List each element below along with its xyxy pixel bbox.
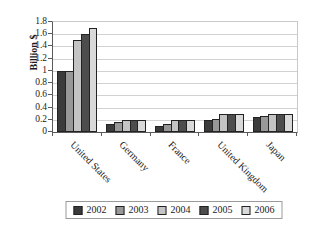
y-tick-mark bbox=[48, 119, 52, 120]
legend-item: 2006 bbox=[242, 205, 275, 215]
y-tick-label: 1.4 bbox=[17, 40, 47, 50]
legend-item: 2004 bbox=[158, 205, 191, 215]
y-tick-mark bbox=[48, 70, 52, 71]
bar-group bbox=[151, 22, 200, 132]
y-tick-mark bbox=[48, 58, 52, 59]
legend-swatch bbox=[242, 206, 251, 215]
bar-group bbox=[199, 22, 248, 132]
y-tick-label: 0.8 bbox=[17, 77, 47, 87]
x-tick-mark bbox=[296, 132, 297, 136]
legend-swatch bbox=[200, 206, 209, 215]
legend-item: 2002 bbox=[74, 205, 107, 215]
x-tick-mark bbox=[198, 132, 199, 136]
x-tick-mark bbox=[247, 132, 248, 136]
bar bbox=[89, 28, 98, 132]
x-tick-mark bbox=[52, 132, 53, 136]
chart-figure: Billion $ 20022003200420052006 00.20.40.… bbox=[0, 0, 314, 238]
legend-item: 2005 bbox=[200, 205, 233, 215]
y-tick-label: 0.6 bbox=[17, 89, 47, 99]
legend-swatch bbox=[74, 206, 83, 215]
x-category-label: United States bbox=[69, 139, 115, 185]
bar bbox=[186, 120, 195, 132]
bar-group bbox=[102, 22, 151, 132]
bar-group bbox=[53, 22, 102, 132]
plot-area bbox=[52, 21, 298, 133]
y-tick-mark bbox=[48, 33, 52, 34]
legend-label: 2004 bbox=[171, 205, 191, 215]
bar bbox=[235, 114, 244, 132]
y-tick-label: 1 bbox=[17, 65, 47, 75]
x-tick-mark bbox=[150, 132, 151, 136]
x-category-label: Germany bbox=[117, 139, 151, 173]
legend-swatch bbox=[116, 206, 125, 215]
y-tick-mark bbox=[48, 82, 52, 83]
y-tick-label: 1.2 bbox=[17, 53, 47, 63]
y-tick-label: 0.2 bbox=[17, 114, 47, 124]
y-tick-mark bbox=[48, 21, 52, 22]
y-tick-label: 0.4 bbox=[17, 102, 47, 112]
y-tick-mark bbox=[48, 45, 52, 46]
y-tick-label: 1.8 bbox=[17, 16, 47, 26]
x-category-label: Japan bbox=[264, 139, 288, 163]
bar-group bbox=[248, 22, 297, 132]
legend-label: 2005 bbox=[213, 205, 233, 215]
x-tick-mark bbox=[101, 132, 102, 136]
legend-label: 2003 bbox=[129, 205, 149, 215]
y-tick-label: 0 bbox=[17, 126, 47, 136]
legend-label: 2006 bbox=[255, 205, 275, 215]
legend-item: 2003 bbox=[116, 205, 149, 215]
y-tick-mark bbox=[48, 107, 52, 108]
legend-label: 2002 bbox=[87, 205, 107, 215]
x-category-label: France bbox=[166, 139, 193, 166]
legend-swatch bbox=[158, 206, 167, 215]
legend: 20022003200420052006 bbox=[66, 201, 283, 219]
y-tick-mark bbox=[48, 94, 52, 95]
x-category-label: United Kingdom bbox=[215, 139, 271, 195]
bar bbox=[284, 114, 293, 132]
bar bbox=[137, 120, 146, 132]
y-tick-label: 1.6 bbox=[17, 28, 47, 38]
